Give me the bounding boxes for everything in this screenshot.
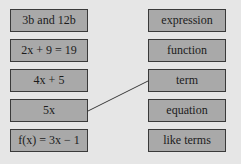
connection-line-5x-to-term	[88, 81, 148, 111]
connection-lines	[0, 0, 241, 164]
